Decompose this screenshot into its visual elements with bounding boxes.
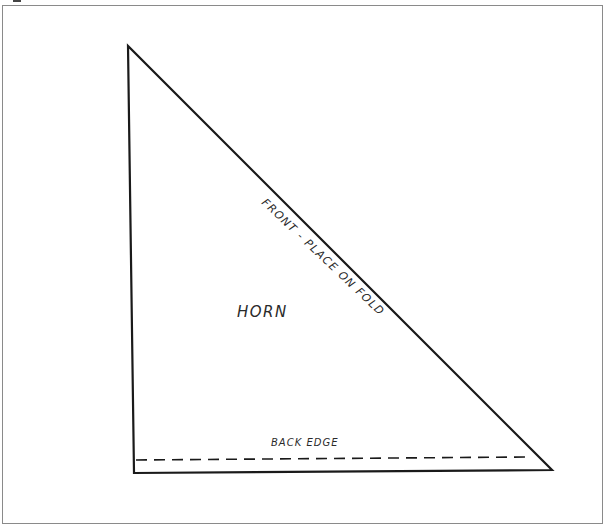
piece-name-label: HORN bbox=[237, 303, 288, 321]
horn-triangle-outline bbox=[128, 46, 552, 473]
horn-pattern-piece bbox=[0, 0, 609, 531]
back-edge-dashed-line bbox=[136, 457, 525, 460]
back-edge-label: BACK EDGE bbox=[271, 437, 339, 448]
